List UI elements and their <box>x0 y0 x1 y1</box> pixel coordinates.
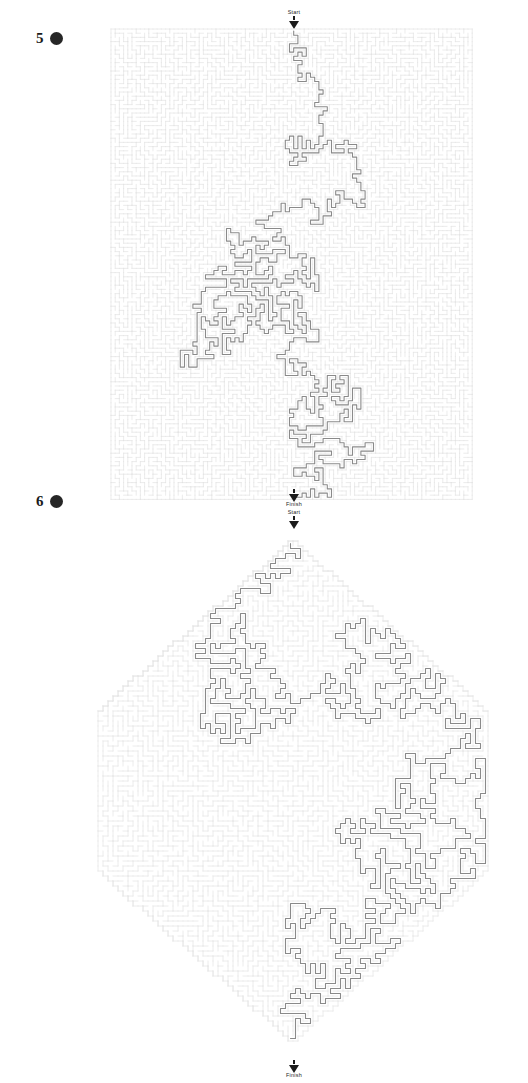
arrow-stem-icon <box>293 16 295 20</box>
bullet-dot-icon <box>50 32 63 45</box>
arrow-down-icon <box>289 521 299 529</box>
bullet-dot-icon <box>50 495 63 508</box>
arrow-stem-icon <box>293 1060 295 1064</box>
maze-hexagon-6-graphic <box>97 535 489 1047</box>
arrow-stem-icon <box>293 516 295 520</box>
puzzle-sheet: 5 Start Finish 6 Start Finish <box>0 0 528 1083</box>
puzzle-index-5: 5 <box>36 31 63 46</box>
puzzle-index-number-6: 6 <box>36 494 44 509</box>
maze-hexagon-6 <box>97 535 489 1047</box>
puzzle-index-6: 6 <box>36 494 63 509</box>
start-label-5: Start <box>264 10 324 16</box>
finish-label-6: Finish <box>264 1073 324 1079</box>
start-marker-6: Start <box>264 510 324 529</box>
finish-marker-5: Finish <box>264 489 324 508</box>
arrow-stem-icon <box>293 489 295 493</box>
maze-rectangle-5-graphic <box>110 28 473 500</box>
maze-rectangle-5 <box>110 28 473 500</box>
start-marker-5: Start <box>264 10 324 29</box>
start-label-6: Start <box>264 510 324 516</box>
finish-label-5: Finish <box>264 502 324 508</box>
puzzle-index-number-5: 5 <box>36 31 44 46</box>
finish-marker-6: Finish <box>264 1060 324 1079</box>
